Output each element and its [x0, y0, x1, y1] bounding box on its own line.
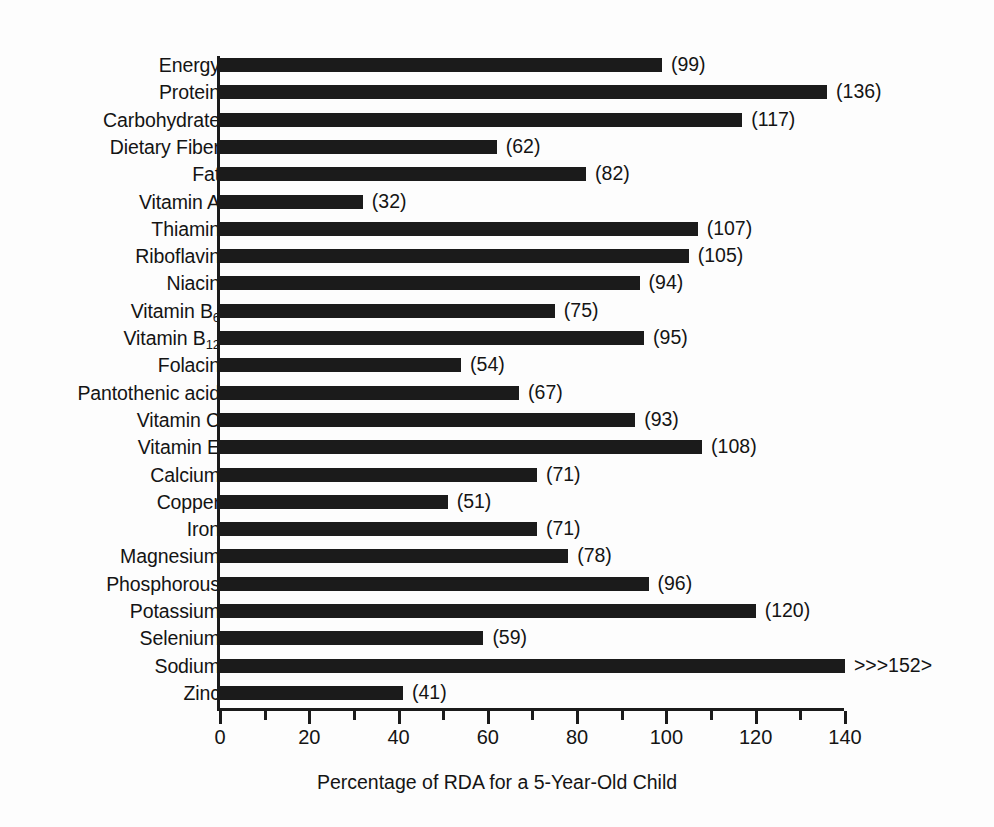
x-tick-major: [398, 711, 401, 724]
bar: [220, 140, 497, 154]
bar-row: Thiamin(107): [0, 217, 994, 244]
category-label: Niacin: [166, 271, 220, 298]
bar-row: Vitamin C(93): [0, 408, 994, 435]
bar-row: Niacin(94): [0, 271, 994, 298]
category-label: Folacin: [158, 353, 220, 380]
x-tick-major: [576, 711, 579, 724]
bar-row: Carbohydrate(117): [0, 108, 994, 135]
bar-value-label: (32): [372, 190, 407, 217]
bar: [220, 195, 363, 209]
category-label: Vitamin B12: [124, 326, 220, 353]
bar: [220, 85, 827, 99]
x-tick-label: 0: [180, 726, 260, 749]
x-axis-title: Percentage of RDA for a 5-Year-Old Child: [0, 771, 994, 794]
category-label: Zinc: [184, 681, 220, 708]
bar: [220, 522, 537, 536]
bar-row: Vitamin B12(95): [0, 326, 994, 353]
category-label: Iron: [187, 517, 220, 544]
category-label: Copper: [157, 490, 220, 517]
bar: [220, 222, 698, 236]
category-label: Vitamin C: [137, 408, 220, 435]
x-tick-label: 80: [537, 726, 617, 749]
bar: [220, 549, 568, 563]
category-label: Calcium: [150, 463, 220, 490]
bar-row: Selenium(59): [0, 626, 994, 653]
bar-row: Sodium>>>152>: [0, 654, 994, 681]
bar-value-label: (94): [649, 271, 684, 298]
bar-value-label: (67): [528, 381, 563, 408]
x-tick-minor: [799, 711, 802, 720]
x-tick-major: [665, 711, 668, 724]
category-label: Magnesium: [120, 544, 220, 571]
category-label: Riboflavin: [135, 244, 220, 271]
bar: [220, 113, 742, 127]
bar-value-label: (71): [546, 463, 581, 490]
bar: [220, 631, 483, 645]
bar-row: Zinc(41): [0, 681, 994, 708]
bar-value-label: (107): [707, 217, 753, 244]
bar-value-label: (78): [577, 544, 612, 571]
category-label: Vitamin B6: [131, 299, 220, 326]
category-label: Carbohydrate: [103, 108, 220, 135]
x-tick-label: 120: [716, 726, 796, 749]
bar-value-label: (136): [836, 80, 882, 107]
x-tick-label: 60: [448, 726, 528, 749]
bar-row: Folacin(54): [0, 353, 994, 380]
bar-value-label: (51): [457, 490, 492, 517]
category-label: Dietary Fiber: [110, 135, 220, 162]
bar-row: Vitamin A(32): [0, 190, 994, 217]
bar-row: Pantothenic acid(67): [0, 381, 994, 408]
bar-row: Energy(99): [0, 53, 994, 80]
bar: [220, 604, 756, 618]
category-label: Sodium: [154, 654, 220, 681]
bar: [220, 331, 644, 345]
category-label: Thiamin: [151, 217, 220, 244]
bar: [220, 659, 845, 673]
x-tick-major: [844, 711, 847, 724]
bar-value-label: (71): [546, 517, 581, 544]
bar-row: Potassium(120): [0, 599, 994, 626]
x-tick-label: 140: [805, 726, 885, 749]
bar: [220, 58, 662, 72]
x-tick-label: 100: [626, 726, 706, 749]
bar-row: Magnesium(78): [0, 544, 994, 571]
bar-value-label: (105): [698, 244, 744, 271]
bar-value-label: (54): [470, 353, 505, 380]
bar-row: Iron(71): [0, 517, 994, 544]
bar-value-label: (95): [653, 326, 688, 353]
y-axis-line: [217, 56, 220, 710]
bar-value-label: (93): [644, 408, 679, 435]
bar-row: Fat(82): [0, 162, 994, 189]
x-tick-minor: [353, 711, 356, 720]
bar-value-label: (120): [765, 599, 811, 626]
bar-row: Phosphorous(96): [0, 572, 994, 599]
category-label: Selenium: [140, 626, 221, 653]
x-tick-minor: [264, 711, 267, 720]
bar-value-label: (99): [671, 53, 706, 80]
bar: [220, 495, 448, 509]
bar-row: Dietary Fiber(62): [0, 135, 994, 162]
x-tick-major: [487, 711, 490, 724]
category-label: Pantothenic acid: [77, 381, 220, 408]
bar-chart-plot-area: Energy(99)Protein(136)Carbohydrate(117)D…: [0, 0, 994, 827]
bar-row: Calcium(71): [0, 463, 994, 490]
x-tick-major: [308, 711, 311, 724]
bar-value-label: (41): [412, 681, 447, 708]
bar-value-label: (82): [595, 162, 630, 189]
bar-value-label: (62): [506, 135, 541, 162]
x-tick-minor: [710, 711, 713, 720]
bar: [220, 386, 519, 400]
bar-row: Vitamin B6(75): [0, 299, 994, 326]
category-label: Energy: [159, 53, 220, 80]
bar-value-label: (75): [564, 299, 599, 326]
bar-value-label: (108): [711, 435, 757, 462]
category-label: Fat: [192, 162, 220, 189]
x-tick-label: 20: [269, 726, 349, 749]
bar: [220, 468, 537, 482]
x-tick-major: [755, 711, 758, 724]
bar: [220, 440, 702, 454]
bar: [220, 358, 461, 372]
bar-value-label: (59): [492, 626, 527, 653]
bar-value-label: >>>152>: [854, 654, 932, 681]
bar: [220, 577, 649, 591]
